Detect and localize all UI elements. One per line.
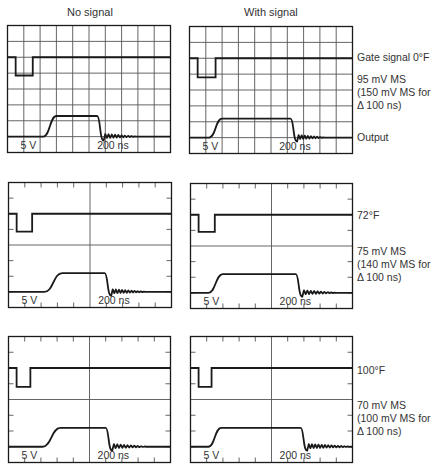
row2-noise-label: 70 mV MS (100 mV MS for Δ 100 ns) xyxy=(357,399,431,438)
row1-noise-label: 75 mV MS (140 mV MS for Δ 100 ns) xyxy=(357,245,431,284)
row0-temp-label: Gate signal 0°F xyxy=(357,51,430,64)
time-per-div-label: 200 ns xyxy=(97,139,129,151)
noise-line: (150 mV MS for xyxy=(357,86,431,99)
time-per-div-label: 200 ns xyxy=(98,294,130,306)
scope-panel-r2-c1: 5 V200 ns xyxy=(190,336,353,463)
volts-per-div-label: 5 V xyxy=(21,449,37,461)
noise-line: 70 mV MS xyxy=(357,399,431,412)
column-title-with-signal: With signal xyxy=(244,6,298,18)
scope-panel-r2-c0: 5 V200 ns xyxy=(8,336,171,463)
noise-line: 95 mV MS xyxy=(357,73,431,86)
time-per-div-label: 200 ns xyxy=(98,449,130,461)
scope-panel-r1-c1: 5 V200 ns xyxy=(190,183,353,309)
noise-line: Δ 100 ns) xyxy=(357,271,431,284)
time-per-div-label: 200 ns xyxy=(280,295,312,307)
noise-line: (100 mV MS for xyxy=(357,412,431,425)
volts-per-div-label: 5 V xyxy=(21,139,37,151)
noise-line: Δ 100 ns) xyxy=(357,425,431,438)
row1-temp-label: 72°F xyxy=(357,209,379,222)
time-per-div-label: 200 ns xyxy=(279,140,311,152)
volts-per-div-label: 5 V xyxy=(203,295,219,307)
noise-line: (140 mV MS for xyxy=(357,258,431,271)
time-per-div-label: 200 ns xyxy=(280,449,312,461)
scope-panel-r1-c0: 5 V200 ns xyxy=(8,182,172,308)
row0-noise-label: 95 mV MS (150 mV MS for Δ 100 ns) xyxy=(357,73,431,112)
noise-line: 75 mV MS xyxy=(357,245,431,258)
volts-per-div-label: 5 V xyxy=(203,140,219,152)
volts-per-div-label: 5 V xyxy=(203,449,219,461)
volts-per-div-label: 5 V xyxy=(22,294,38,306)
scope-panel-r0-c0: 5 V200 ns xyxy=(7,25,171,153)
row0-output-label: Output xyxy=(357,131,389,144)
scope-panel-r0-c1: 5 V200 ns xyxy=(189,26,353,154)
row2-temp-label: 100°F xyxy=(357,364,385,377)
noise-line: Δ 100 ns) xyxy=(357,99,431,112)
column-title-no-signal: No signal xyxy=(67,6,113,18)
